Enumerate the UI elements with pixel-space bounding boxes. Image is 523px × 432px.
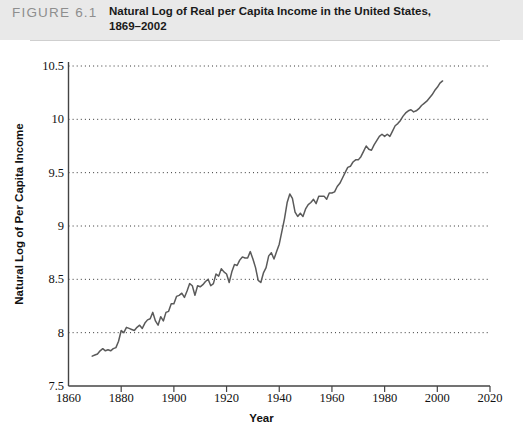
x-tick-label: 1880 (109, 391, 134, 406)
figure-title-line2: 1869–2002 (109, 20, 167, 32)
x-tick-label: 2000 (425, 391, 450, 406)
figure-title-line1: Natural Log of Real per Capita Income in… (109, 5, 431, 17)
x-tick-label: 1980 (372, 391, 397, 406)
data-line-series (92, 81, 442, 356)
figure-number-label: FIGURE 6.1 (12, 5, 98, 20)
axis-spines (69, 62, 491, 386)
x-tick-label: 2020 (478, 391, 503, 406)
x-axis-title: Year (0, 412, 523, 424)
x-tick-label: 1900 (161, 391, 186, 406)
y-tick-label: 8.5 (30, 272, 64, 287)
chart-container: 7.588.599.51010.5 1860188019001920194019… (0, 40, 523, 432)
line-chart-plot (0, 40, 523, 432)
data-series-group (92, 81, 442, 356)
y-axis-tick-labels: 7.588.599.51010.5 (26, 40, 64, 432)
y-tick-label: 10.5 (30, 59, 64, 74)
y-tick-label: 10 (30, 112, 64, 127)
y-tick-label: 9 (30, 219, 64, 234)
y-tick-label: 8 (30, 325, 64, 340)
y-axis-title: Natural Log of Per Capita Income (13, 99, 25, 329)
x-tick-label: 1860 (56, 391, 81, 406)
figure-title: Natural Log of Real per Capita Income in… (109, 4, 509, 33)
gridlines-group (69, 66, 491, 333)
x-tick-label: 1920 (214, 391, 239, 406)
x-tick-label: 1960 (319, 391, 344, 406)
y-tick-label: 9.5 (30, 165, 64, 180)
x-tick-label: 1940 (267, 391, 292, 406)
